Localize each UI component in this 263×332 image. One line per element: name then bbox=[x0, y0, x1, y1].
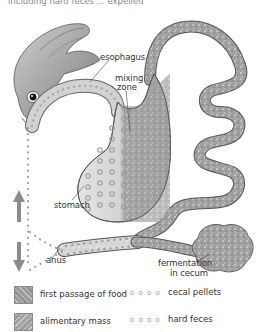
head-shape bbox=[14, 24, 100, 120]
up-arrow-icon bbox=[13, 190, 25, 222]
legend-swatch-first-passage bbox=[14, 286, 33, 304]
legend-swatch-alimentary-mass bbox=[14, 313, 33, 331]
label-stomach: stomach bbox=[54, 200, 90, 210]
legend-label-cecal-pellets: cecal pellets bbox=[168, 287, 221, 297]
label-anus: anus bbox=[46, 255, 66, 265]
down-arrow-icon bbox=[13, 242, 25, 272]
legend-label-first-passage: first passage of food bbox=[40, 289, 127, 299]
label-fermentation-line2: in cecum bbox=[170, 268, 208, 278]
legend-label-alimentary-mass: alimentary mass bbox=[40, 316, 111, 326]
label-fermentation-line1: fermentation bbox=[158, 258, 212, 268]
legend-symbol-cecal-pellets: o o o o bbox=[130, 289, 161, 297]
label-esophagus: esophagus bbox=[100, 52, 145, 62]
label-mixing-zone-line2: zone bbox=[117, 82, 137, 92]
rabbit-digestive-diagram: including hard feces ... expelled bbox=[0, 0, 263, 332]
colon bbox=[64, 242, 138, 250]
stomach-pellet bbox=[98, 148, 102, 152]
diagram-svg bbox=[0, 0, 263, 332]
legend-symbol-hard-feces: o o o o bbox=[130, 316, 161, 324]
rabbit-head bbox=[14, 24, 100, 125]
legend-label-hard-feces: hard feces bbox=[168, 314, 213, 324]
